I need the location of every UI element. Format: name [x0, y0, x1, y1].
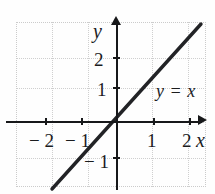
graph-figure: 2 1 − 1 − 2 − 1 1 2 y x y = x: [0, 0, 215, 194]
y-tick-label-2: 2: [94, 50, 104, 69]
x-tick-label-1: 1: [147, 131, 157, 150]
x-axis: [6, 121, 202, 123]
x-tick-minus-1: [81, 118, 83, 125]
y-tick-minus-1: [113, 157, 120, 159]
x-tick-1: [153, 118, 155, 125]
equation-label: y = x: [156, 82, 196, 100]
x-axis-arrow-icon: [198, 115, 207, 125]
y-tick-label-1: 1: [97, 80, 107, 99]
y-axis-arrow-icon: [111, 16, 121, 25]
y-axis-label: y: [93, 21, 102, 41]
y-tick-1: [113, 87, 120, 89]
x-axis-label: x: [196, 130, 205, 150]
y-axis: [116, 24, 118, 190]
x-tick-minus-2: [45, 118, 47, 125]
y-tick-2: [113, 57, 120, 59]
x-tick-2: [189, 118, 191, 125]
x-tick-label-minus-2: − 2: [29, 131, 54, 150]
x-tick-label-2: 2: [182, 131, 192, 150]
y-tick-label-minus-1: − 1: [84, 152, 109, 171]
x-tick-label-minus-1: − 1: [65, 131, 90, 150]
